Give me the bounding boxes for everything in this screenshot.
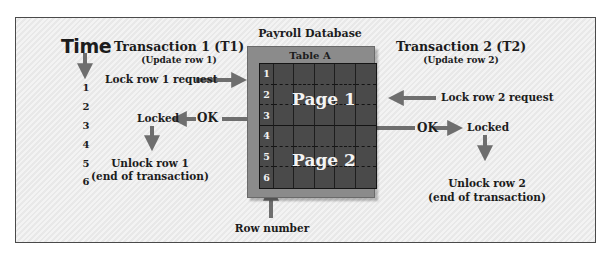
t1-unlock-label: Unlock row 1 <box>111 157 189 169</box>
t1-unlock-sublabel: (end of transaction) <box>91 170 209 182</box>
t1-title: Transaction 1 (T1) <box>114 39 244 54</box>
row-number-cell: 6 <box>260 167 274 188</box>
t2-subtitle: (Update row 2) <box>423 55 499 65</box>
time-tick: 1 <box>83 82 90 93</box>
table-cell <box>315 105 335 126</box>
table-cell <box>274 126 294 147</box>
table-cell <box>335 105 355 126</box>
table-cell <box>315 85 335 106</box>
time-title: Time <box>61 35 111 57</box>
table-cell <box>335 147 355 168</box>
table-cell <box>356 85 376 106</box>
table-cell <box>356 64 376 85</box>
t2-title: Transaction 2 (T2) <box>396 39 526 54</box>
time-tick: 3 <box>83 120 90 131</box>
t2-locked-label: Locked <box>467 121 509 133</box>
t2-unlock-sublabel: (end of transaction) <box>428 191 546 203</box>
time-tick: 6 <box>83 176 90 187</box>
t1-locked-label: Locked <box>137 112 179 124</box>
row-number-cell: 4 <box>260 126 274 147</box>
table-cell <box>335 126 355 147</box>
t1-request-label: Lock row 1 request <box>105 73 218 85</box>
table-cell <box>315 126 335 147</box>
table-cell <box>315 147 335 168</box>
row-number-cell: 5 <box>260 147 274 168</box>
table-cell <box>294 85 314 106</box>
time-tick: 2 <box>83 101 90 112</box>
table-cell <box>356 167 376 188</box>
row-number-cell: 2 <box>260 85 274 106</box>
table-cell <box>274 105 294 126</box>
table-cell <box>274 85 294 106</box>
t1-ok-label: OK <box>197 111 218 125</box>
table-a-title: Table A <box>289 50 330 61</box>
row-number-cell: 1 <box>260 64 274 85</box>
table-cell <box>335 167 355 188</box>
table-cell <box>274 167 294 188</box>
table-a-grid: 1 2 3 4 5 6 <box>259 63 377 189</box>
table-cell <box>356 105 376 126</box>
table-cell <box>315 64 335 85</box>
t2-ok-label: OK <box>417 121 438 135</box>
table-cell <box>356 126 376 147</box>
row-number-caption: Row number <box>235 222 309 234</box>
table-cell <box>294 64 314 85</box>
t2-request-label: Lock row 2 request <box>441 91 554 103</box>
table-cell <box>335 64 355 85</box>
table-cell <box>274 64 294 85</box>
database-title: Payroll Database <box>258 27 362 40</box>
table-cell <box>294 167 314 188</box>
time-tick: 4 <box>83 139 90 150</box>
t1-subtitle: (Update row 1) <box>141 55 217 65</box>
table-cell <box>335 85 355 106</box>
table-cell <box>274 147 294 168</box>
table-cell <box>294 147 314 168</box>
time-tick: 5 <box>83 158 90 169</box>
table-cell <box>356 147 376 168</box>
table-cell <box>294 105 314 126</box>
row-number-cell: 3 <box>260 105 274 126</box>
t2-unlock-label: Unlock row 2 <box>448 177 526 189</box>
table-cell <box>294 126 314 147</box>
table-cell <box>315 167 335 188</box>
